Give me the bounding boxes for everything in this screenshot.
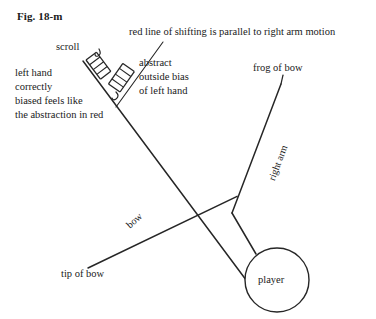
left-hand-note-line-3: biased feels like: [15, 94, 103, 108]
abstract-note: abstract outside bias of left hand: [139, 56, 189, 98]
right-arm-upper-line: [232, 84, 281, 213]
frog-leader-line: [281, 75, 283, 84]
abstract-note-line-1: abstract: [139, 56, 189, 70]
right-arm-forearm-line: [232, 213, 256, 254]
hand-hook-mark-2: [112, 92, 118, 100]
top-caption: red line of shifting is parallel to righ…: [129, 25, 335, 39]
label-player: player: [258, 274, 284, 285]
left-hand-note-line-1: left hand: [15, 66, 103, 80]
label-frog-of-bow: frog of bow: [253, 62, 303, 73]
left-hand-note-line-4: the abstraction in red: [15, 108, 103, 122]
abstract-note-line-3: of left hand: [139, 84, 189, 98]
abstract-note-line-2: outside bias: [139, 70, 189, 84]
left-hand-note-line-2: correctly: [15, 80, 103, 94]
bow-line: [84, 196, 242, 268]
left-hand-note: left hand correctly biased feels like th…: [15, 66, 103, 122]
figure-title: Fig. 18-m: [17, 10, 63, 22]
label-tip-of-bow: tip of bow: [61, 268, 104, 279]
figure-canvas: Fig. 18-m red line of shifting is parall…: [0, 0, 376, 319]
label-scroll: scroll: [56, 41, 79, 52]
